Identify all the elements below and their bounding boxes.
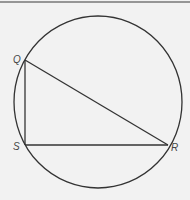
label-s: S <box>13 141 20 152</box>
diagram-canvas: Q S R <box>0 0 190 200</box>
label-r: R <box>171 142 178 153</box>
circle <box>14 16 182 188</box>
segment-qr <box>25 60 168 145</box>
label-q: Q <box>13 54 21 65</box>
geometry-figure: Q S R <box>0 0 190 200</box>
